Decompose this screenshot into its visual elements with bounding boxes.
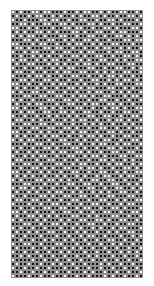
binary-matrix-figure — [11, 10, 143, 278]
page-canvas — [0, 0, 154, 286]
matrix-cell — [139, 274, 143, 278]
matrix-grid — [11, 10, 143, 278]
